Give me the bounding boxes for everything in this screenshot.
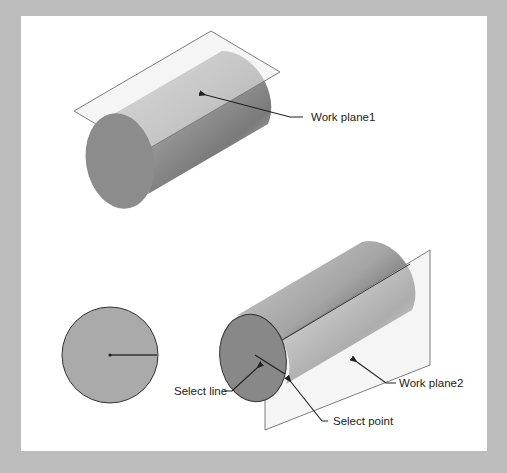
work-plane-2-label: Work plane2 — [399, 377, 463, 389]
work-plane-1-label: Work plane1 — [311, 111, 375, 123]
select-point-label: Select point — [333, 415, 394, 427]
diagram-canvas: Work plane1 Select line Select point Wor… — [0, 0, 507, 473]
top-cylinder-group: Work plane1 — [74, 31, 375, 214]
end-view-circle-group — [62, 307, 158, 403]
select-line-label: Select line — [174, 385, 227, 397]
end-view-center-point — [108, 353, 111, 356]
bottom-cylinder-group: Select line Select point Work plane2 — [174, 241, 463, 430]
